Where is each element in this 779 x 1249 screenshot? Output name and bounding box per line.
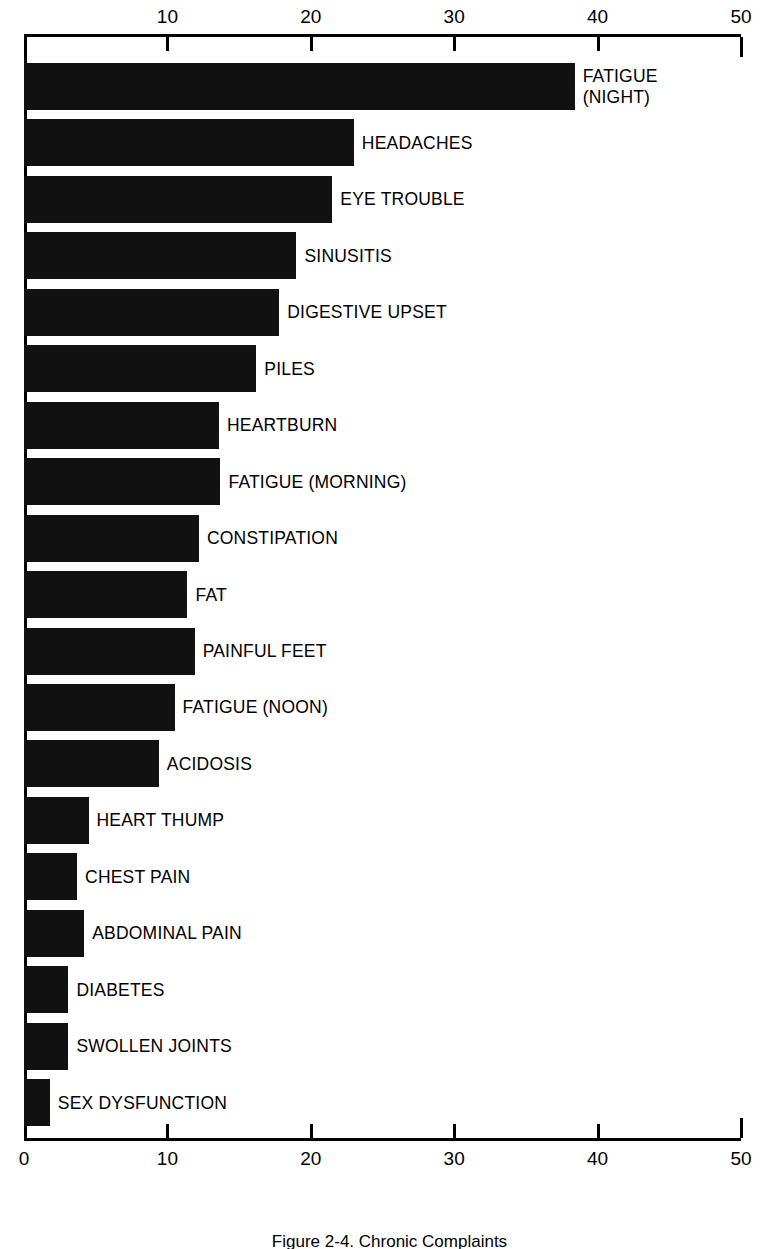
bar-row[interactable]: ABDOMINAL PAIN (0, 910, 779, 957)
bottom-tick-label: 40 (587, 1148, 608, 1170)
bar-label: ABDOMINAL PAIN (92, 923, 242, 944)
bar[interactable] (24, 345, 256, 392)
bar-row[interactable]: SWOLLEN JOINTS (0, 1023, 779, 1070)
bar-row[interactable]: ACIDOSIS (0, 740, 779, 787)
bar[interactable] (24, 740, 159, 787)
bar-label: EYE TROUBLE (340, 189, 464, 210)
bar-label: HEADACHES (362, 132, 473, 153)
bottom-tick-label: 30 (444, 1148, 465, 1170)
bar[interactable] (24, 402, 219, 449)
bars-container: FATIGUE (NIGHT)HEADACHESEYE TROUBLESINUS… (0, 0, 779, 1180)
bar[interactable] (24, 63, 575, 110)
bar[interactable] (24, 1023, 68, 1070)
bar[interactable] (24, 684, 175, 731)
bar-row[interactable]: SEX DYSFUNCTION (0, 1079, 779, 1126)
bar[interactable] (24, 289, 279, 336)
bar-label: FATIGUE (NOON) (183, 697, 328, 718)
bar-row[interactable]: HEART THUMP (0, 797, 779, 844)
bar-row[interactable]: HEADACHES (0, 119, 779, 166)
bar-label: DIGESTIVE UPSET (287, 302, 447, 323)
bar[interactable] (24, 515, 199, 562)
bar-label: SEX DYSFUNCTION (58, 1092, 227, 1113)
bar[interactable] (24, 176, 332, 223)
bottom-axis-tick-labels: 01020304050 (0, 1148, 779, 1170)
bar-label: SINUSITIS (304, 245, 391, 266)
bar[interactable] (24, 232, 296, 279)
bar-row[interactable]: HEARTBURN (0, 402, 779, 449)
bar-row[interactable]: CONSTIPATION (0, 515, 779, 562)
bar[interactable] (24, 797, 89, 844)
bottom-tick-label: 20 (300, 1148, 321, 1170)
bar-row[interactable]: SINUSITIS (0, 232, 779, 279)
bottom-tick-label: 50 (730, 1148, 751, 1170)
bar-label: HEARTBURN (227, 415, 337, 436)
bar-row[interactable]: PAINFUL FEET (0, 628, 779, 675)
bar-row[interactable]: FATIGUE (NOON) (0, 684, 779, 731)
bar[interactable] (24, 910, 84, 957)
bar-label: FATIGUE (NIGHT) (583, 66, 658, 108)
bar-label: FATIGUE (MORNING) (228, 471, 406, 492)
bottom-tick-label: 10 (157, 1148, 178, 1170)
bar-row[interactable]: DIABETES (0, 966, 779, 1013)
bar-label: CHEST PAIN (85, 866, 190, 887)
bar[interactable] (24, 571, 187, 618)
bar[interactable] (24, 119, 354, 166)
bar-row[interactable]: PILES (0, 345, 779, 392)
bar[interactable] (24, 1079, 50, 1126)
bar-label: CONSTIPATION (207, 528, 338, 549)
bar[interactable] (24, 628, 195, 675)
bar-row[interactable]: EYE TROUBLE (0, 176, 779, 223)
bar-label: SWOLLEN JOINTS (76, 1036, 231, 1057)
bar-label: PAINFUL FEET (203, 641, 327, 662)
bar[interactable] (24, 853, 77, 900)
bar-row[interactable]: FATIGUE (NIGHT) (0, 63, 779, 110)
bar-label: DIABETES (76, 979, 164, 1000)
bar[interactable] (24, 458, 220, 505)
bar-chart-plot-area: 1020304050 FATIGUE (NIGHT)HEADACHESEYE T… (0, 0, 779, 1180)
bar-label: ACIDOSIS (167, 753, 252, 774)
bar-label: HEART THUMP (97, 810, 225, 831)
bar[interactable] (24, 966, 68, 1013)
bar-label: PILES (264, 358, 315, 379)
bottom-tick-label: 0 (19, 1148, 30, 1170)
chronic-complaints-figure: 1020304050 FATIGUE (NIGHT)HEADACHESEYE T… (0, 0, 779, 1249)
bar-row[interactable]: FAT (0, 571, 779, 618)
bar-row[interactable]: FATIGUE (MORNING) (0, 458, 779, 505)
bar-row[interactable]: CHEST PAIN (0, 853, 779, 900)
bar-label: FAT (195, 584, 226, 605)
figure-caption: Figure 2-4. Chronic Complaints (0, 1232, 779, 1249)
bar-row[interactable]: DIGESTIVE UPSET (0, 289, 779, 336)
